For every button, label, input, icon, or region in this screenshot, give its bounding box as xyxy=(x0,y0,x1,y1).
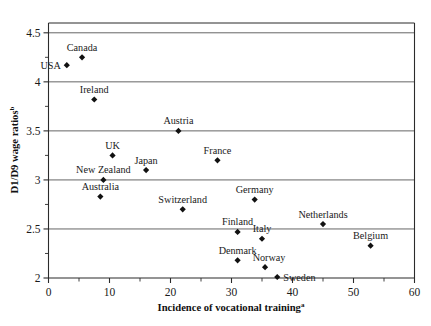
data-point-label: Norway xyxy=(253,252,287,263)
data-point-marker xyxy=(367,243,373,249)
data-point-marker xyxy=(175,128,181,134)
y-axis-title: D1/D9 wage ratiosb xyxy=(8,106,20,193)
data-point-label: Sweden xyxy=(283,272,315,283)
y-tick-label: 4 xyxy=(35,76,41,88)
point-labels-group: USACanadaIrelandAustriaUKFranceJapanNew … xyxy=(40,42,388,283)
y-tick-label: 2 xyxy=(35,272,41,284)
x-tick-label: 40 xyxy=(287,286,299,298)
data-point-marker xyxy=(109,152,115,158)
x-axis-title: Incidence of vocational traininga xyxy=(158,301,305,313)
tick-labels-group: 22.533.544.50102030405060 xyxy=(26,27,420,298)
scatter-chart-svg: 22.533.544.50102030405060 USACanadaIrela… xyxy=(0,0,431,326)
data-point-marker xyxy=(97,193,103,199)
data-point-marker xyxy=(214,157,220,163)
data-point-label: Belgium xyxy=(353,230,388,241)
data-point-label: New Zealand xyxy=(76,164,131,175)
data-point-marker xyxy=(235,229,241,235)
data-point-marker xyxy=(64,62,70,68)
data-point-label: USA xyxy=(40,60,61,71)
y-tick-label: 2.5 xyxy=(26,223,41,235)
gridlines-group xyxy=(49,33,415,229)
data-point-marker xyxy=(252,196,258,202)
x-tick-label: 0 xyxy=(46,286,52,298)
x-tick-label: 50 xyxy=(348,286,360,298)
y-axis-title-superscript: b xyxy=(8,106,16,110)
data-point-label: Netherlands xyxy=(298,209,347,220)
data-point-marker xyxy=(259,236,265,242)
x-tick-label: 30 xyxy=(226,286,238,298)
data-point-label: Germany xyxy=(236,184,275,195)
data-point-label: Canada xyxy=(67,42,98,53)
data-point-marker xyxy=(143,167,149,173)
data-point-label: Ireland xyxy=(80,84,109,95)
y-tick-label: 4.5 xyxy=(26,27,41,39)
data-point-marker xyxy=(235,257,241,263)
data-point-marker xyxy=(180,206,186,212)
x-tick-label: 20 xyxy=(165,286,177,298)
y-tick-label: 3 xyxy=(35,174,41,186)
x-axis-title-superscript: a xyxy=(301,301,305,309)
data-point-label: Italy xyxy=(253,223,273,234)
x-tick-label: 60 xyxy=(409,286,421,298)
data-point-marker xyxy=(274,274,280,280)
data-point-label: France xyxy=(204,145,232,156)
data-point-marker xyxy=(79,54,85,60)
data-point-marker xyxy=(91,96,97,102)
data-point-marker xyxy=(262,264,268,270)
data-point-label: Austria xyxy=(163,115,193,126)
data-point-label: Denmark xyxy=(219,245,258,256)
data-point-label: Finland xyxy=(222,216,253,227)
x-tick-label: 10 xyxy=(104,286,116,298)
scatter-chart-figure: 22.533.544.50102030405060 USACanadaIrela… xyxy=(0,0,431,326)
data-point-label: Switzerland xyxy=(158,194,207,205)
data-point-marker xyxy=(320,221,326,227)
data-point-label: Australia xyxy=(82,181,120,192)
data-point-label: UK xyxy=(105,140,120,151)
data-point-label: Japan xyxy=(134,155,157,166)
y-tick-label: 3.5 xyxy=(26,125,41,137)
